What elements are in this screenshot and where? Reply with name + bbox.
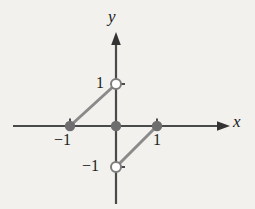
curve-segment-right <box>116 126 157 167</box>
x-tick-label-pos1: 1 <box>153 132 161 148</box>
coordinate-plane-svg <box>0 0 255 209</box>
y-tick-label-pos1: 1 <box>96 75 104 91</box>
y-axis-label: y <box>108 8 116 25</box>
x-axis-arrowhead <box>217 121 230 131</box>
open-point-0-1 <box>111 79 121 89</box>
closed-point-1-0 <box>152 121 162 131</box>
y-axis-arrowhead <box>111 32 121 45</box>
x-axis-label: x <box>233 113 241 130</box>
curve-segment-left <box>70 84 116 126</box>
closed-point-origin <box>111 121 121 131</box>
closed-point-neg1-0 <box>65 121 75 131</box>
x-tick-label-neg1: −1 <box>54 132 71 148</box>
open-point-0-neg1 <box>111 162 121 172</box>
y-tick-label-neg1: −1 <box>82 158 99 174</box>
graph-figure: y x −1 1 1 −1 <box>0 0 255 209</box>
